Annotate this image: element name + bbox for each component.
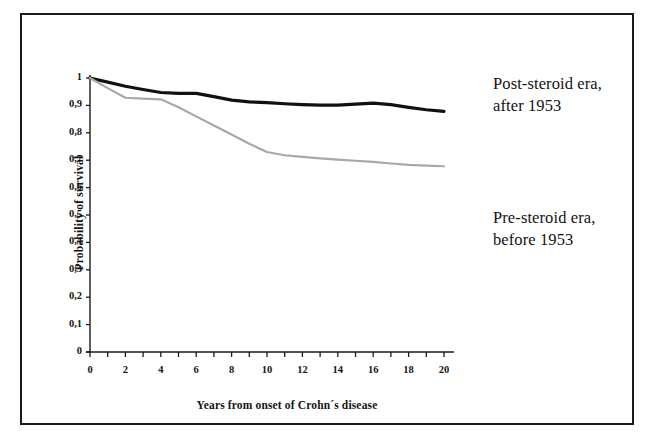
x-tick-label: 20 xyxy=(432,364,456,375)
x-tick-label: 2 xyxy=(113,364,137,375)
legend-post-steroid: Post-steroid era, after 1953 xyxy=(493,73,602,118)
axes-group xyxy=(86,75,454,357)
figure-border: Probability of survival Years from onset… xyxy=(20,13,634,425)
y-tick-label: 0,7 xyxy=(48,153,82,164)
legend-post-steroid-line1: Post-steroid era, xyxy=(493,73,602,95)
y-tick-label: 1 xyxy=(48,71,82,82)
x-tick-label: 0 xyxy=(78,364,102,375)
y-tick-label: 0,1 xyxy=(48,318,82,329)
legend-post-steroid-line2: after 1953 xyxy=(493,95,602,117)
x-tick-label: 12 xyxy=(290,364,314,375)
series-line-0 xyxy=(90,78,444,111)
legend-pre-steroid: Pre-steroid era, before 1953 xyxy=(493,207,595,252)
x-tick-label: 14 xyxy=(326,364,350,375)
y-tick-label: 0,3 xyxy=(48,263,82,274)
series-line-1 xyxy=(90,78,444,166)
y-tick-label: 0,6 xyxy=(48,181,82,192)
x-tick-label: 16 xyxy=(361,364,385,375)
y-tick-label: 0,4 xyxy=(48,235,82,246)
legend-pre-steroid-line2: before 1953 xyxy=(493,229,595,251)
y-tick-label: 0,5 xyxy=(48,208,82,219)
x-tick-label: 6 xyxy=(184,364,208,375)
series-group xyxy=(90,78,444,166)
figure-canvas: Probability of survival Years from onset… xyxy=(0,0,650,440)
legend-pre-steroid-line1: Pre-steroid era, xyxy=(493,207,595,229)
x-tick-label: 10 xyxy=(255,364,279,375)
y-tick-label: 0 xyxy=(48,345,82,356)
y-tick-label: 0,8 xyxy=(48,126,82,137)
x-tick-label: 18 xyxy=(397,364,421,375)
x-axis-title: Years from onset of Crohn´s disease xyxy=(110,399,464,411)
y-tick-label: 0,2 xyxy=(48,290,82,301)
x-tick-label: 8 xyxy=(220,364,244,375)
y-tick-label: 0,9 xyxy=(48,98,82,109)
x-tick-label: 4 xyxy=(149,364,173,375)
